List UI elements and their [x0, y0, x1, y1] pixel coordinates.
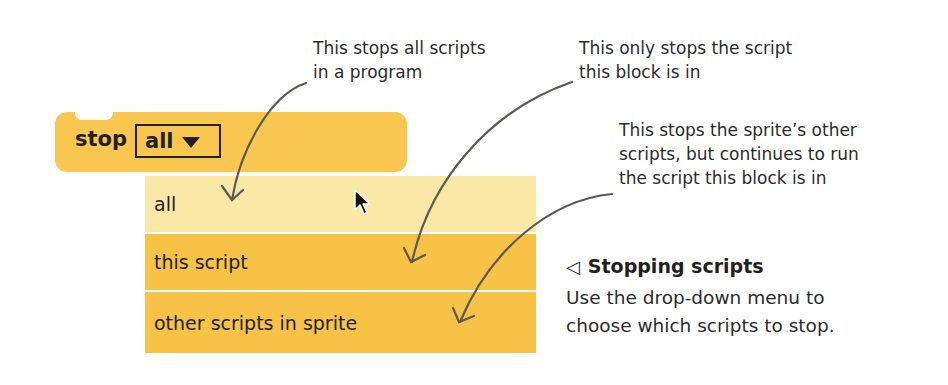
- dropdown-value: all: [145, 129, 174, 153]
- caption-body: Use the drop-down menu to choose which s…: [566, 284, 835, 340]
- stop-block[interactable]: stop all: [55, 112, 407, 172]
- caption-title-text: Stopping scripts: [588, 255, 764, 277]
- caption-line: Use the drop-down menu to: [566, 284, 835, 312]
- menu-item-all[interactable]: all: [145, 176, 536, 232]
- caption-line: choose which scripts to stop.: [566, 312, 835, 340]
- annotation-text: this block is in: [579, 60, 792, 84]
- annotation-this-script: This only stops the script this block is…: [579, 36, 792, 84]
- annotation-text: the script this block is in: [619, 166, 859, 190]
- menu-item-other-scripts-in-sprite[interactable]: other scripts in sprite: [145, 292, 536, 353]
- menu-item-label: all: [154, 193, 176, 215]
- annotation-text: This stops the sprite’s other: [619, 118, 859, 142]
- menu-item-label: other scripts in sprite: [154, 312, 357, 334]
- mouse-pointer-icon: [352, 188, 378, 222]
- stop-option-dropdown[interactable]: all: [135, 124, 221, 158]
- annotation-all: This stops all scripts in a program: [313, 36, 486, 84]
- stop-block-label: stop: [75, 127, 127, 151]
- stop-options-menu: all this script other scripts in sprite: [145, 176, 536, 353]
- dropdown-triangle-icon: [182, 137, 200, 148]
- annotation-text: in a program: [313, 60, 486, 84]
- menu-item-label: this script: [154, 251, 248, 273]
- caption-title: ◁ Stopping scripts: [566, 255, 764, 277]
- annotation-other-scripts: This stops the sprite’s other scripts, b…: [619, 118, 859, 190]
- pointer-left-icon: ◁: [566, 256, 580, 277]
- menu-item-this-script[interactable]: this script: [145, 234, 536, 290]
- annotation-text: This only stops the script: [579, 36, 792, 60]
- annotation-text: This stops all scripts: [313, 36, 486, 60]
- annotation-text: scripts, but continues to run: [619, 142, 859, 166]
- block-notch: [75, 111, 113, 120]
